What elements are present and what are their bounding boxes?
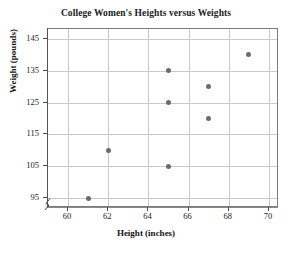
y-tick-mark [43,38,47,39]
gridline-vertical [269,29,270,206]
scatter-chart-figure: College Women's Heights versus Weights H… [0,0,292,253]
data-point [206,116,211,121]
x-axis-label: Height (inches) [0,228,292,238]
y-axis-spine [47,28,48,208]
gridline-horizontal [48,134,277,135]
x-tick-label: 66 [183,211,192,221]
data-point [106,148,111,153]
y-tick-label: 95 [0,192,39,202]
y-tick-label: 115 [0,128,39,138]
x-tick-label: 68 [224,211,233,221]
gridline-horizontal [48,71,277,72]
gridline-horizontal [48,103,277,104]
x-tick-label: 70 [264,211,273,221]
gridline-vertical [229,29,230,206]
gridline-vertical [148,29,149,206]
plot-area [47,28,278,207]
data-point [166,100,171,105]
data-point [86,196,91,201]
gridline-vertical [108,29,109,206]
x-tick-label: 64 [143,211,152,221]
gridline-horizontal [48,198,277,199]
data-point [206,84,211,89]
y-tick-mark [43,197,47,198]
y-tick-mark [43,102,47,103]
y-tick-mark [43,165,47,166]
chart-title: College Women's Heights versus Weights [0,8,292,18]
y-tick-label: 105 [0,160,39,170]
data-point [166,164,171,169]
gridline-horizontal [48,166,277,167]
gridline-vertical [189,29,190,206]
y-tick-label: 125 [0,97,39,107]
gridline-horizontal [48,39,277,40]
x-tick-label: 60 [63,211,72,221]
y-tick-mark [43,70,47,71]
y-tick-label: 135 [0,65,39,75]
data-point [166,68,171,73]
data-point [246,52,251,57]
y-tick-mark [43,133,47,134]
y-axis-label: Weight (pounds) [8,0,18,126]
x-axis-spine [47,207,278,208]
gridline-vertical [68,29,69,206]
y-tick-label: 145 [0,33,39,43]
x-tick-label: 62 [103,211,112,221]
